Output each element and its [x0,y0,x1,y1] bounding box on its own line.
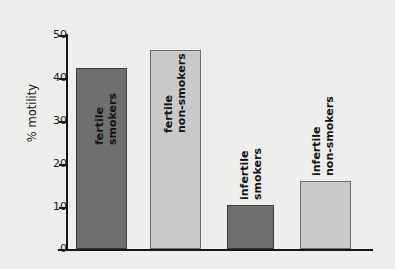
y-tick-label-40: 40 [45,72,67,83]
y-axis-line [66,34,68,251]
y-tick-label-10: 10 [45,201,67,212]
y-tick-label-50: 50 [45,29,67,40]
y-tick-10: 10 [0,207,67,209]
bar-label-line1: infertile [310,126,323,176]
bar-label-line2: non-smokers [324,96,337,176]
y-tick-50: 50 [0,35,67,37]
bar-fertile-non-smokers [150,50,201,249]
y-tick-0: 0 [0,249,67,251]
bar-chart: % motility 50 40 30 20 10 0 fertile smok… [0,0,395,269]
x-axis-line [58,249,373,251]
y-axis-title: % motility [25,73,39,153]
bar-label-infertile-non-smokers: infertile non-smokers [311,96,337,176]
bar-label-infertile-smokers: infertile smokers [239,148,265,200]
y-tick-30: 30 [0,121,67,123]
y-tick-40: 40 [0,78,67,80]
y-tick-20: 20 [0,164,67,166]
y-tick-label-20: 20 [45,158,67,169]
y-tick-label-0: 0 [45,243,67,254]
bar-infertile-non-smokers [300,181,351,249]
y-tick-label-30: 30 [45,115,67,126]
bar-label-line2: smokers [252,148,265,200]
bar-infertile-smokers [227,205,274,249]
bar-label-line1: infertile [238,150,251,200]
bar-fertile-smokers [76,68,127,249]
